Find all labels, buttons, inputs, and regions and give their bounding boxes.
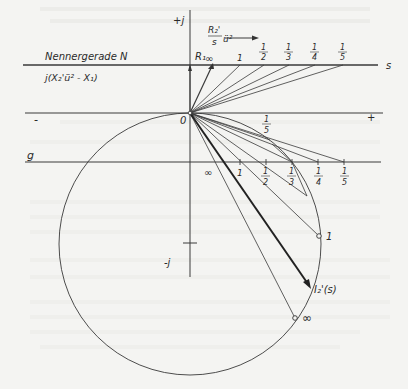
arrowhead-icon bbox=[303, 279, 311, 289]
svg-text:2: 2 bbox=[263, 178, 268, 187]
svg-text:5: 5 bbox=[264, 126, 269, 135]
svg-text:5: 5 bbox=[340, 53, 345, 62]
svg-text:2: 2 bbox=[261, 53, 266, 62]
g-point-fifth: 1 5 bbox=[340, 167, 349, 187]
denominator-line-label: Nennergerade N bbox=[45, 51, 128, 62]
circle-point-inf-marker bbox=[293, 316, 298, 321]
origin-label: 0 bbox=[180, 115, 186, 126]
g-point-quarter: 1 4 bbox=[314, 167, 323, 187]
svg-text:1: 1 bbox=[312, 43, 317, 52]
svg-text:5: 5 bbox=[342, 178, 347, 187]
inner-point-fifth: 1 5 bbox=[262, 115, 271, 135]
g-point-third: 1 3 bbox=[287, 167, 296, 187]
g-line-label: g bbox=[27, 149, 34, 162]
circle-point-inf-label: ∞ bbox=[302, 311, 312, 325]
svg-text:1: 1 bbox=[316, 167, 321, 176]
r2-numerator: R₂' bbox=[208, 25, 220, 35]
minus-j-label: -j bbox=[164, 257, 171, 268]
denominator-expression: j(X₂'ü² - X₁) bbox=[43, 72, 98, 83]
r2-factor: ü² bbox=[223, 34, 233, 44]
plus-j-label: +j bbox=[173, 15, 184, 26]
n-point-1: 1 bbox=[237, 53, 243, 63]
origin-marker bbox=[188, 111, 192, 115]
arrowhead-icon bbox=[252, 36, 259, 41]
n-point-half: 1 2 bbox=[259, 43, 268, 62]
svg-text:4: 4 bbox=[312, 53, 317, 62]
svg-text:3: 3 bbox=[289, 178, 294, 187]
svg-text:1: 1 bbox=[263, 167, 268, 176]
g-point-half: 1 2 bbox=[261, 167, 270, 187]
n-point-fifth: 1 5 bbox=[338, 43, 347, 62]
s-axis-label: s bbox=[386, 60, 391, 71]
n-point-quarter: 1 4 bbox=[310, 43, 319, 62]
r2-denominator: s bbox=[212, 37, 217, 47]
svg-text:1: 1 bbox=[340, 43, 345, 52]
circle-point-1-marker bbox=[317, 234, 322, 239]
svg-text:1: 1 bbox=[286, 43, 291, 52]
current-vector-label: I₂'(s) bbox=[314, 284, 337, 295]
svg-text:1: 1 bbox=[264, 115, 269, 124]
circle-diagram: +j -j 0 - + g s Nennergerade N j(X₂'ü² -… bbox=[0, 0, 408, 389]
svg-text:1: 1 bbox=[342, 167, 347, 176]
plus-label: + bbox=[367, 112, 375, 123]
svg-text:1: 1 bbox=[261, 43, 266, 52]
minus-label: - bbox=[34, 113, 38, 126]
svg-text:1: 1 bbox=[289, 167, 294, 176]
rays-to-n-line bbox=[190, 65, 343, 113]
n-point-inf: ∞ bbox=[205, 53, 213, 64]
g-point-1: 1 bbox=[237, 168, 243, 178]
svg-text:3: 3 bbox=[286, 53, 291, 62]
g-point-inf: ∞ bbox=[204, 167, 212, 178]
circle-point-1-label: 1 bbox=[326, 231, 332, 242]
n-point-third: 1 3 bbox=[284, 43, 293, 62]
svg-text:4: 4 bbox=[316, 178, 321, 187]
